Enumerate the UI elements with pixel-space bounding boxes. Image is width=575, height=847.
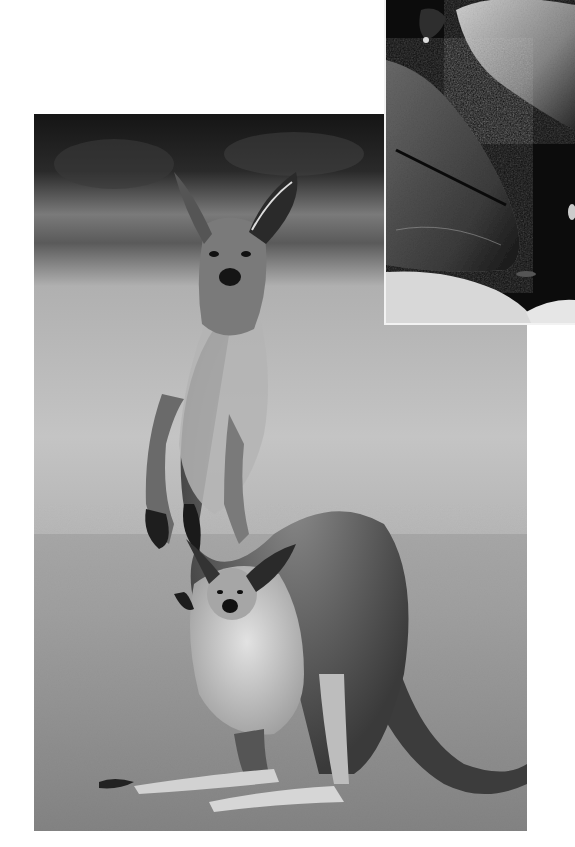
rock-illustration [386,0,575,323]
rock-closeup-photo: Close-up of dark, textured rock surfaces [384,0,575,325]
